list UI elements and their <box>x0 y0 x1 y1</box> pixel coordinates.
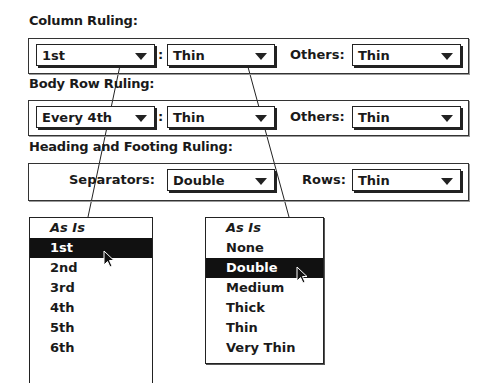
separators-value: Double <box>173 170 225 192</box>
chevron-down-icon <box>441 178 453 185</box>
rows-popup[interactable]: Thin <box>352 169 461 191</box>
chevron-down-icon <box>135 115 147 122</box>
column-weight-value: Thin <box>173 45 205 67</box>
column-weight-popup[interactable]: Thin <box>167 44 275 66</box>
separators-popup[interactable]: Double <box>167 169 275 191</box>
column-which-value: 1st <box>42 45 65 67</box>
body-row-which-popup[interactable]: Every 4th <box>36 106 155 128</box>
weight-menu-item-as-is[interactable]: As Is <box>206 218 323 238</box>
chevron-down-icon <box>441 115 453 122</box>
chevron-down-icon <box>255 53 267 60</box>
rows-value: Thin <box>358 170 390 192</box>
which-menu-item-1st[interactable]: 1st <box>30 238 152 258</box>
body-row-others-value: Thin <box>358 107 390 129</box>
weight-menu-item-thick[interactable]: Thick <box>206 298 323 318</box>
arrow-cursor-icon <box>296 266 310 286</box>
body-row-others-popup[interactable]: Thin <box>352 106 461 128</box>
column-others-popup[interactable]: Thin <box>352 44 461 66</box>
which-menu-item-5th[interactable]: 5th <box>30 318 152 338</box>
arrow-cursor-icon <box>103 250 117 270</box>
weight-menu: As Is None Double Medium Thick Thin Very… <box>205 217 324 364</box>
chevron-down-icon <box>255 115 267 122</box>
which-menu-item-2nd[interactable]: 2nd <box>30 258 152 278</box>
column-others-label: Others: <box>290 44 345 66</box>
which-menu: As Is 1st 2nd 3rd 4th 5th 6th <box>29 217 153 383</box>
column-ruling-heading: Column Ruling: <box>29 13 138 28</box>
weight-menu-item-none[interactable]: None <box>206 238 323 258</box>
which-menu-item-6th[interactable]: 6th <box>30 338 152 358</box>
weight-menu-item-very-thin[interactable]: Very Thin <box>206 338 323 358</box>
body-row-separator: : <box>158 106 163 128</box>
which-menu-item-4th[interactable]: 4th <box>30 298 152 318</box>
heading-footing-ruling-heading: Heading and Footing Ruling: <box>29 139 233 154</box>
which-menu-item-as-is[interactable]: As Is <box>30 218 152 238</box>
rows-label: Rows: <box>302 169 346 191</box>
column-which-popup[interactable]: 1st <box>36 44 155 66</box>
column-others-value: Thin <box>358 45 390 67</box>
body-row-others-label: Others: <box>290 106 345 128</box>
chevron-down-icon <box>441 53 453 60</box>
body-row-ruling-heading: Body Row Ruling: <box>29 76 154 91</box>
body-row-weight-popup[interactable]: Thin <box>167 106 275 128</box>
column-separator: : <box>158 44 163 66</box>
separators-label: Separators: <box>69 169 155 191</box>
body-row-weight-value: Thin <box>173 107 205 129</box>
weight-menu-item-thin[interactable]: Thin <box>206 318 323 338</box>
which-menu-item-3rd[interactable]: 3rd <box>30 278 152 298</box>
chevron-down-icon <box>135 53 147 60</box>
body-row-which-value: Every 4th <box>42 107 112 129</box>
chevron-down-icon <box>255 178 267 185</box>
